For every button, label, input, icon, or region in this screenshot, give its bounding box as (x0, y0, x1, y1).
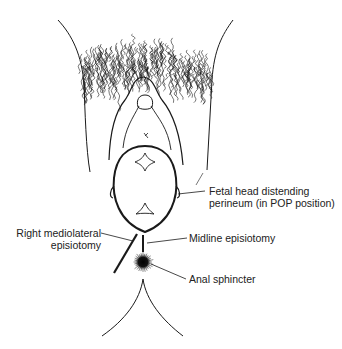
posterior-fontanelle (136, 203, 154, 214)
mediolateral-episiotomy-incision (114, 234, 137, 273)
leader-anal-sphincter (151, 264, 186, 279)
anterior-fontanelle (135, 153, 155, 171)
leader-fetal-head (178, 191, 205, 194)
hair-strand (202, 82, 205, 104)
fetal-head (114, 146, 177, 232)
label-anal-sphincter-text: Anal sphincter (189, 273, 256, 285)
buttock-right (143, 279, 183, 336)
buttock-left (102, 279, 143, 336)
hair-strand (132, 34, 136, 45)
hair-strand (105, 49, 109, 70)
right-thigh-outline (207, 20, 233, 170)
label-midline-text: Midline episiotomy (189, 232, 275, 244)
leader-mediolateral (101, 233, 133, 241)
label-fetal-head-line1: Fetal head distending (209, 185, 335, 197)
labia-minora-left (123, 106, 139, 148)
hair-strand (178, 81, 183, 100)
pubic-hair (78, 34, 214, 111)
diagram-canvas (0, 0, 342, 349)
urethra-mark (144, 133, 148, 138)
label-anal-sphincter: Anal sphincter (189, 273, 256, 285)
clitoral-hood (137, 95, 152, 109)
label-fetal-head: Fetal head distending perineum (in POP p… (209, 185, 335, 209)
labia-minora-right (151, 106, 171, 150)
hair-strand (123, 44, 126, 55)
leader-midline (147, 238, 187, 243)
hair-strand (115, 46, 119, 71)
label-midline: Midline episiotomy (189, 232, 275, 244)
label-mediolateral-line1: Right mediolateral (16, 227, 101, 239)
hair-strand (116, 69, 119, 84)
label-mediolateral-line2: episiotomy (16, 239, 101, 251)
label-fetal-head-line2: perineum (in POP position) (209, 197, 335, 209)
leader-fetal-head-perineum (196, 173, 203, 185)
label-mediolateral: Right mediolateral episiotomy (16, 227, 101, 251)
hair-strand (92, 49, 95, 75)
hair-strand (96, 78, 99, 97)
